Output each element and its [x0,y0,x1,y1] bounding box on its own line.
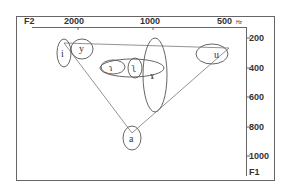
f1-tick-400: 400 [249,63,264,73]
ellipse-u [196,44,228,64]
f2-axis-label: F2 [24,16,35,26]
f2-tick-1000: 1000 [140,16,160,26]
f1-ticks: 200 400 600 800 1000 [246,33,269,161]
f2-tick-500: 500 [217,16,232,26]
vowel-y: y [79,43,84,54]
f1-tick-600: 600 [249,92,264,102]
vowel-i: i [61,48,64,59]
f1-axis-label: F1 [249,167,260,177]
vowel-apical-retroflex: ʅ [131,63,136,74]
ellipse-apical-dental [101,60,125,74]
ellipse-ram-horn [143,38,167,112]
vowel-u: u [214,49,219,60]
f1-tick-1000: 1000 [249,151,269,161]
vowel-a: a [129,133,134,144]
f1-tick-200: 200 [249,33,264,43]
f2-tick-2000: 2000 [64,16,84,26]
vowel-ellipses [57,38,228,150]
f1-tick-800: 800 [249,122,264,132]
f2-unit: Hz [236,19,243,25]
vowel-apical-dental: ɿ [109,62,113,73]
vowel-ram-horn: ɤ [150,70,155,81]
vowel-chart: F2 2000 1000 500 Hz 200 400 600 800 1000… [0,0,291,190]
